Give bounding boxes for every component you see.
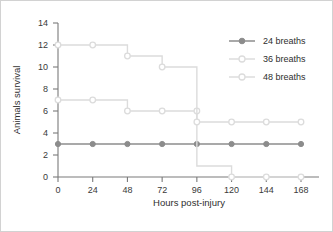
- data-point-marker: [229, 141, 234, 146]
- x-tick-label: 120: [224, 185, 239, 195]
- x-tick-label: 0: [55, 185, 60, 195]
- y-tick-label: 0: [43, 172, 48, 182]
- data-point-marker: [90, 97, 96, 103]
- legend-label: 36 breaths: [263, 54, 306, 64]
- data-point-marker: [159, 108, 165, 114]
- data-point-marker: [90, 42, 96, 48]
- legend-label: 24 breaths: [263, 36, 306, 46]
- data-point-marker: [55, 141, 60, 146]
- data-point-marker: [125, 141, 130, 146]
- y-axis-title: Animals survival: [11, 66, 22, 135]
- x-axis-title: Hours post-injury: [153, 197, 225, 208]
- data-point-marker: [125, 108, 131, 114]
- x-tick-label: 168: [293, 185, 308, 195]
- data-point-marker: [263, 174, 269, 180]
- y-tick-label: 2: [43, 150, 48, 160]
- data-point-marker: [160, 141, 165, 146]
- x-tick-label: 144: [259, 185, 274, 195]
- x-tick-label: 96: [192, 185, 202, 195]
- chart-figure: 02468101214 024487296120144168 Hours pos…: [0, 0, 333, 232]
- x-axis-ticks: 024487296120144168: [55, 177, 308, 195]
- y-tick-label: 8: [43, 84, 48, 94]
- data-point-marker: [55, 97, 61, 103]
- y-tick-label: 6: [43, 106, 48, 116]
- data-point-marker: [298, 174, 304, 180]
- y-tick-label: 12: [38, 40, 48, 50]
- legend-label: 48 breaths: [263, 72, 306, 82]
- x-tick-label: 48: [122, 185, 132, 195]
- series-line-36-breaths: [58, 100, 301, 177]
- legend-marker-icon: [239, 38, 245, 44]
- legend-marker-icon: [239, 74, 245, 80]
- data-point-marker: [229, 119, 235, 125]
- legend-marker-icon: [239, 56, 245, 62]
- x-tick-label: 24: [88, 185, 98, 195]
- y-tick-label: 4: [43, 128, 48, 138]
- x-tick-label: 72: [157, 185, 167, 195]
- data-point-marker: [298, 119, 304, 125]
- data-point-marker: [159, 64, 165, 70]
- data-point-marker: [263, 119, 269, 125]
- survival-step-chart: 02468101214 024487296120144168 Hours pos…: [1, 1, 333, 232]
- chart-legend: 24 breaths36 breaths48 breaths: [229, 36, 306, 82]
- data-point-marker: [90, 141, 95, 146]
- data-point-marker: [55, 42, 61, 48]
- data-point-marker: [229, 174, 235, 180]
- data-point-marker: [194, 119, 200, 125]
- data-point-marker: [125, 53, 131, 59]
- y-tick-label: 10: [38, 62, 48, 72]
- data-point-marker: [264, 141, 269, 146]
- data-point-marker: [298, 141, 303, 146]
- y-tick-label: 14: [38, 18, 48, 28]
